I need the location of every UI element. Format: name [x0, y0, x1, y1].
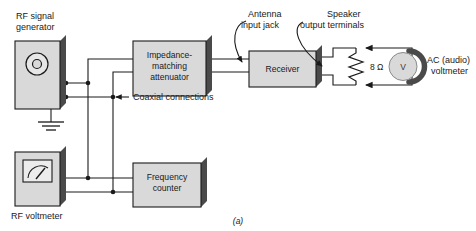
- attenuator-label-line3: attenuator: [150, 72, 189, 82]
- figure-canvas: RF signal generator Impedance- matching …: [0, 0, 476, 231]
- ac-voltmeter-label-line2: voltmeter: [431, 66, 468, 76]
- junction-counter-top: [86, 176, 91, 181]
- junction-return-tap: [111, 95, 116, 100]
- counter-label-line2: counter: [153, 183, 182, 193]
- counter-label-line1: Frequency: [147, 172, 188, 182]
- figure-caption: (a): [233, 216, 244, 226]
- ac-voltmeter-symbol[interactable]: V: [389, 51, 424, 82]
- generator-dial-inner[interactable]: [33, 60, 42, 69]
- block-frequency-counter[interactable]: [133, 157, 207, 207]
- ac-voltmeter-label-line1: AC (audio): [427, 55, 470, 65]
- block-rf-signal-generator[interactable]: [15, 35, 66, 109]
- antenna-jack-label-line2: input jack: [241, 20, 280, 30]
- rf-voltmeter-face: [23, 160, 52, 182]
- wire-gen-return-to-attenuator: [66, 72, 133, 97]
- receiver-label: Receiver: [266, 64, 300, 74]
- load-resistor-value: 8 Ω: [370, 62, 383, 72]
- junction-dots: [64, 81, 116, 195]
- attenuator-label-line2: matching: [152, 61, 187, 71]
- ac-voltmeter-v-label: V: [400, 62, 406, 72]
- speaker-terminals-label-line2: output terminals: [300, 20, 365, 30]
- attenuator-label-line1: Impedance-: [147, 50, 193, 60]
- coaxial-label: Coaxial connections: [133, 92, 214, 102]
- antenna-jack-label-line1: Antenna: [248, 9, 282, 19]
- circuit-diagram: RF signal generator Impedance- matching …: [0, 0, 476, 231]
- speaker-terminals-label-line1: Speaker: [327, 9, 361, 19]
- wire-gen-hot-to-attenuator: [66, 59, 133, 83]
- junction-hot-tap: [86, 81, 91, 86]
- junction-counter-bottom: [111, 190, 116, 195]
- load-resistor-symbol: [349, 48, 363, 85]
- rf-voltmeter-label: RF voltmeter: [11, 211, 63, 221]
- ground-symbol: [38, 122, 64, 130]
- block-rf-voltmeter[interactable]: [15, 146, 66, 206]
- generator-label-line2: generator: [16, 22, 55, 32]
- generator-label-line1: RF signal: [16, 11, 54, 21]
